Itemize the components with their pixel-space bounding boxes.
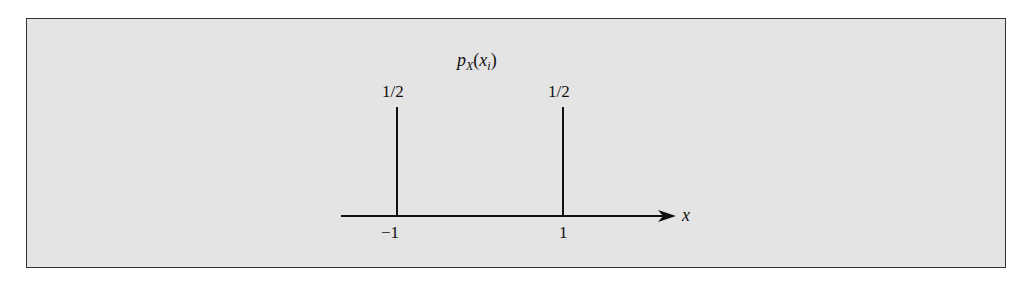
tick-label: −1 xyxy=(381,223,399,243)
stem-value-label: 1/2 xyxy=(382,82,404,102)
stem-value-label: 1/2 xyxy=(548,82,570,102)
x-axis-label: x xyxy=(682,205,690,226)
chart-title: pX(xi) xyxy=(457,50,497,74)
tick-label: 1 xyxy=(559,223,568,243)
stem-plot xyxy=(0,0,1035,291)
